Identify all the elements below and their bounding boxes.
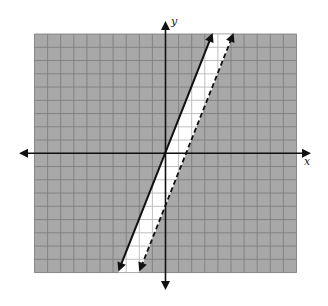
y-axis-arrow-down-icon [161, 281, 170, 290]
x-axis-label: x [304, 155, 311, 168]
coordinate-plane: x y [0, 0, 328, 306]
x-axis-arrow-left-icon [19, 149, 28, 158]
y-axis-arrow-up-icon [161, 21, 170, 30]
y-axis-label: y [170, 15, 178, 28]
